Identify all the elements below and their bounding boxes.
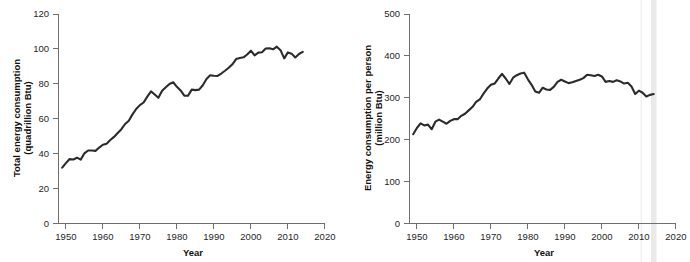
svg-text:2010: 2010 xyxy=(277,231,298,242)
x-ticks-right xyxy=(417,224,676,230)
y-axis-title-left: Total energy consumption (quadrillion Bt… xyxy=(11,59,33,177)
data-series-line-right xyxy=(413,73,654,135)
x-tick-labels-left: 1950 1960 1970 1980 1990 2000 2010 2020 xyxy=(55,231,335,242)
svg-text:400: 400 xyxy=(384,50,400,61)
chart-svg-per-person: 0 100 200 300 400 500 1950 1960 19 xyxy=(345,0,690,262)
x-axis-title-left: Year xyxy=(183,247,203,258)
chart-svg-total-energy: 0 20 40 60 80 100 120 1950 1960 xyxy=(0,0,345,262)
y-axis-title-right-line2: (million Btu) xyxy=(373,90,384,145)
svg-text:1950: 1950 xyxy=(406,231,427,242)
svg-text:100: 100 xyxy=(33,43,49,54)
two-panel-line-chart-figure: energy per 0 20 40 6 xyxy=(0,0,690,262)
x-axis-title-right: Year xyxy=(534,247,554,258)
svg-text:40: 40 xyxy=(38,148,49,159)
svg-text:1960: 1960 xyxy=(443,231,464,242)
svg-text:300: 300 xyxy=(384,92,400,103)
chart-panel-per-person: 0 100 200 300 400 500 1950 1960 19 xyxy=(345,0,690,262)
y-ticks-left xyxy=(53,14,59,224)
chart-panel-total-energy: 0 20 40 60 80 100 120 1950 1960 xyxy=(0,0,345,262)
x-tick-labels-right: 1950 1960 1970 1980 1990 2000 2010 2020 xyxy=(406,231,686,242)
y-axis-title-left-line1: Total energy consumption xyxy=(11,59,22,177)
scan-artifact-band-1 xyxy=(641,0,643,262)
svg-text:1990: 1990 xyxy=(554,231,575,242)
svg-text:2000: 2000 xyxy=(591,231,612,242)
y-tick-labels-left: 0 20 40 60 80 100 120 xyxy=(33,8,49,229)
svg-text:2020: 2020 xyxy=(665,231,686,242)
svg-text:1960: 1960 xyxy=(92,231,113,242)
svg-text:80: 80 xyxy=(38,78,49,89)
data-series-line-left xyxy=(62,47,303,168)
x-ticks-left xyxy=(66,224,325,230)
svg-text:1950: 1950 xyxy=(55,231,76,242)
svg-text:1970: 1970 xyxy=(480,231,501,242)
svg-text:1980: 1980 xyxy=(517,231,538,242)
svg-text:2010: 2010 xyxy=(628,231,649,242)
svg-text:1990: 1990 xyxy=(203,231,224,242)
svg-text:120: 120 xyxy=(33,8,49,19)
svg-text:500: 500 xyxy=(384,8,400,19)
svg-text:2020: 2020 xyxy=(314,231,335,242)
svg-text:2000: 2000 xyxy=(240,231,261,242)
svg-text:100: 100 xyxy=(384,176,400,187)
svg-text:0: 0 xyxy=(395,218,400,229)
scan-artifact-band-2 xyxy=(651,0,657,262)
y-axis-title-right: Energy consumption per person (million B… xyxy=(362,45,384,191)
y-axis-title-left-line2: (quadrillion Btu) xyxy=(22,81,33,154)
svg-text:200: 200 xyxy=(384,134,400,145)
svg-text:60: 60 xyxy=(38,113,49,124)
svg-text:1970: 1970 xyxy=(129,231,150,242)
y-axis-title-right-line1: Energy consumption per person xyxy=(362,45,373,191)
svg-text:20: 20 xyxy=(38,183,49,194)
y-ticks-right xyxy=(404,14,410,224)
svg-text:0: 0 xyxy=(44,218,49,229)
svg-text:1980: 1980 xyxy=(166,231,187,242)
y-tick-labels-right: 0 100 200 300 400 500 xyxy=(384,8,400,229)
